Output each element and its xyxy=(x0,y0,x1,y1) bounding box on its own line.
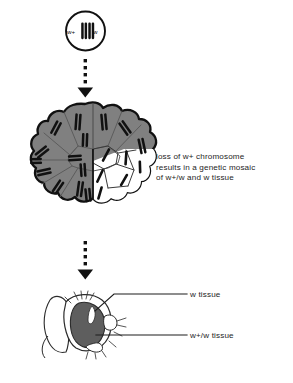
arrow-head xyxy=(78,270,94,280)
arrow-dot xyxy=(84,59,87,62)
fly-eye-dark xyxy=(70,302,104,347)
chromosome xyxy=(138,160,141,173)
arrow-dot xyxy=(84,255,87,258)
chromosome xyxy=(85,23,88,40)
figure-canvas xyxy=(0,0,293,383)
fly-antenna xyxy=(104,315,117,330)
chromosome xyxy=(82,133,85,147)
chromosome-single xyxy=(138,160,141,173)
figure-caption: loss of w+ chromosome results in a genet… xyxy=(156,152,291,184)
arrow-dot xyxy=(84,248,87,251)
label-wplus-w-tissue: w+/w tissue xyxy=(190,331,234,341)
arrow-dot xyxy=(84,66,87,69)
zygote-genotype-left: w+ xyxy=(67,28,75,35)
genetic-mosaic-figure: w+ w loss of w+ chromosome results in a … xyxy=(0,0,293,383)
chromosome xyxy=(30,161,42,164)
arrow-head xyxy=(78,88,94,98)
label-w-tissue: w tissue xyxy=(190,290,220,300)
arrow-dot xyxy=(84,80,87,83)
zygote-genotype-right: w xyxy=(93,28,98,35)
fly-illustration xyxy=(42,291,126,359)
arrow-embryo-to-fly xyxy=(78,241,94,280)
chromosome xyxy=(85,133,88,147)
arrow-dot xyxy=(84,241,87,244)
chromosome xyxy=(88,23,91,40)
chromosome xyxy=(30,158,42,161)
arrow-dot xyxy=(84,73,87,76)
chromosome xyxy=(81,23,84,40)
arrow-zygote-to-embryo xyxy=(78,59,94,98)
arrow-dot xyxy=(84,262,87,265)
embryo-cell-cluster xyxy=(30,102,156,202)
